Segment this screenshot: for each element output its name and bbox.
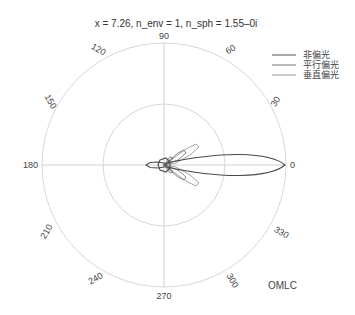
tick-60: 60 [224,43,238,57]
tick-90: 90 [159,31,169,41]
legend-label-perpendicular: 垂直偏光 [303,69,339,80]
legend: 非偏光 平行偏光 垂直偏光 [272,49,339,80]
tick-300: 300 [225,271,241,289]
tick-330: 330 [272,224,290,240]
tick-210: 210 [38,222,54,240]
tick-240: 240 [86,270,104,286]
tick-120: 120 [89,41,107,57]
legend-label-unpolarized: 非偏光 [303,49,330,60]
tick-180: 180 [23,160,38,170]
tick-270: 270 [156,291,171,301]
chart-title: x = 7.26, n_env = 1, n_sph = 1.55–0i [95,18,258,29]
polar-chart: x = 7.26, n_env = 1, n_sph = 1.55–0i 0 3… [0,0,355,315]
credit-label: OMLC [268,280,297,291]
tick-0: 0 [290,160,295,170]
legend-label-parallel: 平行偏光 [303,59,339,70]
